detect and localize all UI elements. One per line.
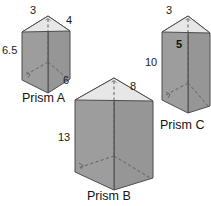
prism-c-top-face bbox=[162, 16, 210, 33]
prism-b-group: 6 8 13 Prism B bbox=[58, 74, 153, 203]
prism-a-group: 3 4 6.5 Prism A bbox=[2, 4, 72, 105]
prism-b-label-8: 8 bbox=[130, 80, 136, 92]
prisms-diagram: 3 4 6.5 Prism A 6 8 13 Prism B bbox=[0, 0, 211, 206]
geometry-figure-canvas: 3 4 6.5 Prism A 6 8 13 Prism B bbox=[0, 0, 211, 206]
prism-a-label-6-5: 6.5 bbox=[2, 44, 17, 56]
prism-c-label-5: 5 bbox=[176, 38, 182, 50]
prism-a-top-face bbox=[22, 16, 70, 32]
prism-c-label-3: 3 bbox=[166, 4, 172, 16]
prism-a-name: Prism A bbox=[22, 91, 66, 105]
prism-a-label-3: 3 bbox=[30, 4, 36, 16]
prism-b-label-6: 6 bbox=[63, 74, 69, 86]
prism-c-group: 3 5 10 Prism C bbox=[145, 4, 210, 132]
prism-b-name: Prism B bbox=[87, 189, 131, 203]
prism-c-name: Prism C bbox=[160, 118, 204, 132]
prism-b-label-13: 13 bbox=[58, 131, 70, 143]
prism-a-label-4: 4 bbox=[66, 14, 72, 26]
prism-c-label-10: 10 bbox=[145, 56, 157, 68]
